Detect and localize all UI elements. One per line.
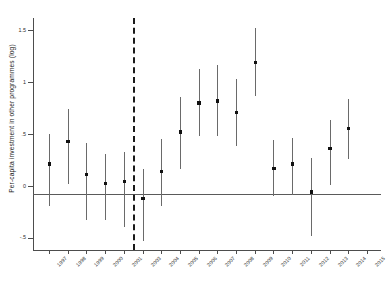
x-axis-tick-label: 2008 <box>243 255 256 268</box>
x-axis-tick-label: 2006 <box>205 255 218 268</box>
x-axis-tick <box>199 250 200 254</box>
data-point <box>328 147 331 150</box>
x-axis-tick <box>348 250 349 254</box>
x-axis-tick <box>367 250 368 254</box>
data-point <box>104 182 107 185</box>
x-axis-tick <box>292 250 293 254</box>
data-point <box>66 140 69 143</box>
data-point <box>235 111 238 114</box>
x-axis-tick <box>180 250 181 254</box>
chart-figure: Per-capita investment in other programme… <box>0 0 387 294</box>
error-bar <box>143 169 144 241</box>
x-axis-tick <box>68 250 69 254</box>
x-axis-tick-label: 2001 <box>130 255 143 268</box>
x-axis-tick-label: 2007 <box>224 255 237 268</box>
x-axis-tick <box>86 250 87 254</box>
data-point <box>291 162 294 165</box>
y-axis-tick <box>28 238 33 239</box>
vertical-reference-line <box>133 18 135 250</box>
x-axis-tick-label: 2011 <box>298 255 310 267</box>
error-bar <box>311 158 312 237</box>
data-point <box>254 61 257 64</box>
y-axis-tick <box>28 186 33 187</box>
y-axis-tick-label: 0 <box>0 183 28 189</box>
y-axis-tick <box>28 82 33 83</box>
x-axis-tick-label: 1999 <box>93 255 106 268</box>
x-axis-tick-label: 2015 <box>374 255 387 268</box>
x-axis-tick-label: 1998 <box>74 255 87 268</box>
y-axis-line <box>33 18 34 250</box>
error-bar <box>124 152 125 228</box>
data-point <box>123 180 126 183</box>
data-point <box>160 170 163 173</box>
x-axis-tick-label: 2014 <box>355 255 368 268</box>
x-axis-tick <box>143 250 144 254</box>
x-axis-tick-label: 1997 <box>55 255 68 268</box>
data-point <box>141 197 144 200</box>
x-axis-tick <box>273 250 274 254</box>
y-axis-tick <box>28 30 33 31</box>
y-axis-tick-label: 1 <box>0 79 28 85</box>
x-axis-tick <box>255 250 256 254</box>
x-axis-tick <box>311 250 312 254</box>
y-axis-tick-label: -.5 <box>0 234 28 240</box>
x-axis-tick <box>217 250 218 254</box>
error-bar <box>330 120 331 185</box>
x-axis-tick-label: 2009 <box>261 255 274 268</box>
data-point <box>272 167 275 170</box>
x-axis-tick-label: 2013 <box>336 255 349 268</box>
error-bar <box>49 134 50 206</box>
x-axis-tick <box>105 250 106 254</box>
x-axis-tick <box>124 250 125 254</box>
x-axis-tick-label: 2010 <box>280 255 293 268</box>
x-axis-tick <box>161 250 162 254</box>
y-axis-tick-label: 1.5 <box>0 27 28 33</box>
error-bar <box>105 154 106 220</box>
data-point <box>85 173 88 176</box>
data-point <box>216 99 219 102</box>
y-axis-title: Per-capita investment in other programme… <box>8 4 15 234</box>
x-axis-tick-label: 2012 <box>317 255 330 268</box>
y-axis-tick-label: .5 <box>0 131 28 137</box>
y-axis-tick <box>28 134 33 135</box>
x-axis-tick-label: 2004 <box>168 255 181 268</box>
error-bar <box>68 109 69 184</box>
x-axis-tick <box>236 250 237 254</box>
zero-reference-line <box>33 194 381 195</box>
error-bar <box>292 138 293 195</box>
x-axis-tick <box>330 250 331 254</box>
x-axis-tick <box>49 250 50 254</box>
data-point <box>179 130 182 133</box>
x-axis-tick-label: 2005 <box>186 255 199 268</box>
data-point <box>310 190 313 193</box>
data-point <box>48 162 51 165</box>
error-bar <box>86 143 87 220</box>
x-axis-tick-label: 2000 <box>112 255 125 268</box>
data-point <box>347 127 350 130</box>
data-point <box>197 101 200 104</box>
x-axis-tick-label: 2003 <box>149 255 162 268</box>
